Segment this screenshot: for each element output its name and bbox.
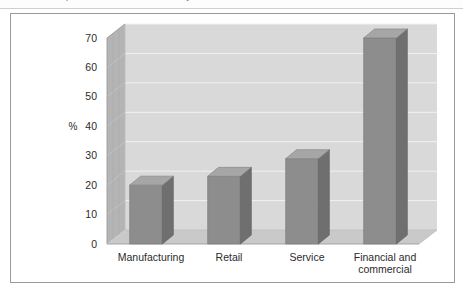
bar-side-0 — [162, 176, 173, 244]
y-tick-label-30: 30 — [85, 149, 97, 161]
bar-3 — [364, 29, 408, 244]
bar-front-3 — [364, 38, 397, 244]
y-tick-label-20: 20 — [85, 179, 97, 191]
bar-side-1 — [240, 167, 251, 244]
bar-front-0 — [130, 185, 163, 244]
header-divider — [0, 8, 463, 9]
y-tick-label-60: 60 — [85, 61, 97, 73]
y-tick-label-10: 10 — [85, 208, 97, 220]
y-axis-label: % — [69, 121, 78, 132]
figure-frame: 010203040506070%ManufacturingRetailServi… — [10, 13, 455, 283]
x-tick-label-1: Retail — [216, 251, 243, 263]
y-tick-label-50: 50 — [85, 90, 97, 102]
x-tick-label-3: Financial and — [354, 251, 417, 263]
bar-side-3 — [396, 29, 407, 244]
bar-1 — [208, 167, 252, 244]
x-tick-label-3-line2: commercial — [358, 263, 412, 275]
x-tick-label-0: Manufacturing — [118, 251, 185, 263]
bar-front-1 — [208, 176, 241, 244]
y-tick-label-70: 70 — [85, 32, 97, 44]
x-tick-label-2: Service — [289, 251, 324, 263]
bar-front-2 — [286, 159, 319, 244]
bar-side-2 — [318, 150, 329, 244]
y-tick-label-0: 0 — [91, 238, 97, 250]
cutoff-caption-text: The adoption of EDI and e-commerce by se… — [34, 0, 217, 1]
bar-2 — [286, 150, 330, 244]
chart-svg: 010203040506070%ManufacturingRetailServi… — [11, 14, 454, 282]
bar-0 — [130, 176, 174, 244]
y-tick-label-40: 40 — [85, 120, 97, 132]
left-wall — [107, 24, 125, 244]
bar-chart: 010203040506070%ManufacturingRetailServi… — [11, 14, 454, 282]
